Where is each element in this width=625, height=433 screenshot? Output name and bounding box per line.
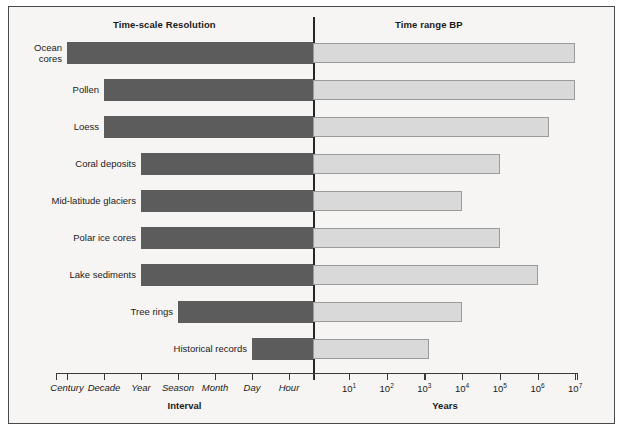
tick-mark-interval — [67, 373, 68, 380]
axis-title-interval: Interval — [168, 400, 202, 411]
tick-mark-interval — [252, 373, 253, 380]
tick-mark-interval — [104, 373, 105, 380]
row-label-tree-rings: Tree rings — [131, 307, 173, 318]
tick-label-years-1: 101 — [342, 382, 356, 394]
chart-row: Coral deposits — [9, 153, 616, 175]
row-label-polar-ice-cores: Polar ice cores — [73, 233, 136, 244]
resolution-bar — [178, 301, 313, 323]
row-label-ocean-cores: Oceancores — [34, 43, 62, 64]
resolution-bar — [141, 264, 313, 286]
time-range-bar — [313, 339, 429, 359]
resolution-bar — [141, 227, 313, 249]
time-range-bar — [313, 191, 462, 211]
row-label-mid-latitude-glaciers: Mid-latitude glaciers — [52, 196, 136, 207]
tick-label-years-5: 105 — [493, 382, 507, 394]
chart-row: Oceancores — [9, 42, 616, 64]
tick-mark-years — [387, 373, 388, 380]
resolution-bar — [141, 190, 313, 212]
tick-label-years-2: 102 — [380, 382, 394, 394]
resolution-bar — [252, 338, 313, 360]
tick-label-century: Century — [50, 382, 83, 393]
time-range-bar — [313, 228, 500, 248]
row-label-coral-deposits: Coral deposits — [75, 159, 136, 170]
tick-label-years-3: 103 — [417, 382, 431, 394]
row-label-loess: Loess — [74, 122, 99, 133]
time-range-bar — [313, 302, 462, 322]
time-range-bar — [313, 80, 575, 100]
chart-row: Historical records — [9, 338, 616, 360]
tick-label-years-4: 104 — [455, 382, 469, 394]
chart-row: Tree rings — [9, 301, 616, 323]
time-range-bar — [313, 117, 549, 137]
tick-label-month: Month — [202, 382, 228, 393]
tick-label-year: Year — [131, 382, 151, 393]
chart-row: Loess — [9, 116, 616, 138]
tick-label-years-7: 107 — [568, 382, 582, 394]
time-range-bar — [313, 43, 575, 63]
row-label-historical-records: Historical records — [174, 344, 247, 355]
tick-mark-interval — [178, 373, 179, 380]
tick-label-years-6: 106 — [530, 382, 544, 394]
resolution-bar — [67, 42, 313, 64]
tick-mark-interval — [141, 373, 142, 380]
axis-line-interval — [56, 373, 314, 374]
chart-row: Polar ice cores — [9, 227, 616, 249]
tick-mark-years — [500, 373, 501, 380]
axis-title-years: Years — [432, 400, 457, 411]
time-range-bar — [313, 154, 500, 174]
resolution-bar — [141, 153, 313, 175]
chart-row: Pollen — [9, 79, 616, 101]
panel-header-resolution: Time-scale Resolution — [113, 19, 216, 30]
tick-mark-years — [424, 373, 425, 380]
panel-header-time-range: Time range BP — [395, 19, 463, 30]
chart-row: Lake sediments — [9, 264, 616, 286]
tick-mark-years — [349, 373, 350, 380]
row-label-pollen: Pollen — [73, 85, 99, 96]
chart-figure: Time-scale Resolution Time range BP Ocea… — [8, 6, 615, 424]
resolution-bar — [104, 116, 313, 138]
tick-mark-years — [538, 373, 539, 380]
tick-mark-years — [462, 373, 463, 380]
tick-label-season: Season — [162, 382, 194, 393]
tick-label-hour: Hour — [279, 382, 300, 393]
resolution-bar — [104, 79, 313, 101]
row-label-lake-sediments: Lake sediments — [69, 270, 136, 281]
tick-mark-interval — [289, 373, 290, 380]
axis-end-cap — [313, 373, 314, 380]
time-range-bar — [313, 265, 538, 285]
axis-end-cap — [577, 373, 578, 380]
tick-mark-interval — [215, 373, 216, 380]
tick-label-day: Day — [244, 382, 261, 393]
tick-label-decade: Decade — [88, 382, 121, 393]
chart-row: Mid-latitude glaciers — [9, 190, 616, 212]
axis-end-cap — [56, 373, 57, 380]
